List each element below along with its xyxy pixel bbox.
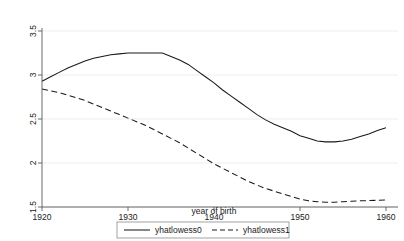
x-tick-label-1930: 1930	[119, 212, 138, 222]
legend-label-yhatlowess0: yhatlowess0	[155, 225, 202, 235]
chart-legend: yhatlowess0yhatlowess1	[117, 222, 290, 238]
x-tick-label-1960: 1960	[377, 212, 396, 222]
x-tick-label-1920: 1920	[33, 212, 52, 222]
series-line-yhatlowess1	[42, 89, 386, 202]
ticks-group	[38, 31, 386, 211]
y-axis-tick-labels: 1.522.533.5	[28, 25, 38, 213]
x-tick-label-1950: 1950	[291, 212, 310, 222]
series-line-yhatlowess0	[42, 53, 386, 142]
y-tick-label-2.5: 2.5	[28, 113, 38, 125]
legend-label-yhatlowess1: yhatlowess1	[243, 225, 290, 235]
y-tick-label-2: 2	[28, 160, 38, 165]
chart-figure: 1.522.533.5 19201930194019501960 year of…	[0, 0, 404, 241]
line-chart: 1.522.533.5 19201930194019501960 year of…	[0, 0, 404, 241]
y-tick-label-3.5: 3.5	[28, 25, 38, 37]
axes-group	[42, 28, 398, 207]
x-axis-title: year of birth	[192, 206, 237, 216]
y-tick-label-3: 3	[28, 72, 38, 77]
